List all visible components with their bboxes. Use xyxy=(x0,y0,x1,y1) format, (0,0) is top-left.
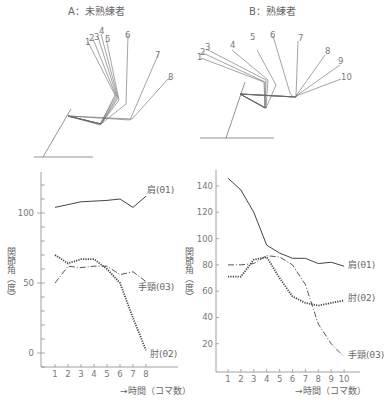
x-axis-label-a: →時間（コマ数） xyxy=(120,385,191,396)
series-line-b xyxy=(228,178,344,266)
figure-canvas: 12345678 A：未熟練者 12345678910 B：熟練者 050100… xyxy=(0,0,392,400)
y-tick-label-b: 80 xyxy=(202,260,213,270)
x-tick-label-a: 4 xyxy=(91,369,96,379)
x-tick-label-a: 5 xyxy=(104,369,109,379)
legend-elbow-a: 肘(θ2) xyxy=(150,349,177,359)
stick-figure-unskilled: 12345678 xyxy=(34,26,173,157)
y-tick-label-a: 50 xyxy=(23,278,34,288)
y-tick-label-b: 120 xyxy=(197,207,213,217)
x-tick-label-b: 3 xyxy=(251,374,256,384)
x-tick-label-b: 10 xyxy=(339,374,350,384)
legend-shoulder-b: 肩(θ1) xyxy=(348,259,375,270)
frame-number-a: 8 xyxy=(168,72,173,82)
legend-elbow-b: 肘(θ2) xyxy=(348,293,375,303)
x-tick-label-a: 7 xyxy=(130,369,135,379)
y-tick-label-b: 140 xyxy=(197,181,213,191)
legend-wrist-a: 手頸(θ3) xyxy=(138,281,174,292)
axes-b: 2040608010012014012345678910関節角（度） xyxy=(184,170,360,384)
legend-shoulder-a: 肩(θ1) xyxy=(147,184,174,195)
frame-number-a: 6 xyxy=(125,30,130,40)
x-tick-label-b: 4 xyxy=(264,374,269,384)
x-tick-label-b: 6 xyxy=(290,374,295,384)
y-tick-label-b: 40 xyxy=(202,312,213,322)
arm-pose xyxy=(240,36,293,97)
x-tick-label-b: 2 xyxy=(238,374,243,384)
trunk-line xyxy=(43,109,71,157)
arm-pose xyxy=(68,34,118,124)
x-tick-label-a: 1 xyxy=(52,369,57,379)
x-tick-label-a: 2 xyxy=(65,369,70,379)
arm-pose xyxy=(68,35,128,124)
arm-pose xyxy=(68,38,119,124)
x-axis-label-b: →時間（コマ数） xyxy=(295,385,366,396)
frame-number-a: 5 xyxy=(105,34,110,44)
stick-figure-skilled: 12345678910 xyxy=(197,30,352,138)
frame-number-b: 5 xyxy=(250,32,255,42)
frame-number-b: 4 xyxy=(230,40,235,50)
arm-pose xyxy=(240,41,298,97)
y-tick-label-b: 100 xyxy=(197,234,213,244)
axes-a: 05010012345678関節角（度） xyxy=(6,172,178,379)
x-tick-label-a: 8 xyxy=(143,369,148,379)
series-b xyxy=(228,178,344,357)
x-tick-label-b: 5 xyxy=(277,374,282,384)
arm-pose xyxy=(68,55,158,120)
panel-title-a: A：未熟練者 xyxy=(68,5,125,17)
chart-skilled: 2040608010012014012345678910関節角（度） 肩(θ1)… xyxy=(184,170,384,396)
legend-wrist-b: 手頸(θ3) xyxy=(348,349,384,360)
series-line-a xyxy=(55,196,146,207)
trunk-line xyxy=(226,82,245,138)
y-tick-label-a: 0 xyxy=(29,348,34,358)
frame-number-b: 10 xyxy=(341,72,352,82)
frame-number-b: 3 xyxy=(205,42,210,52)
panel-title-b: B：熟練者 xyxy=(249,5,296,17)
frame-number-b: 7 xyxy=(298,33,303,43)
x-tick-label-a: 6 xyxy=(117,369,122,379)
series-line-a xyxy=(55,255,146,350)
series-line-a xyxy=(55,266,146,283)
frame-number-a: 4 xyxy=(99,26,104,36)
y-tick-label-b: 20 xyxy=(202,339,213,349)
x-tick-label-b: 1 xyxy=(225,374,230,384)
y-tick-label-a: 100 xyxy=(18,208,34,218)
frame-number-b: 8 xyxy=(325,46,330,56)
arm-pose xyxy=(240,79,341,97)
frame-number-b: 6 xyxy=(270,30,275,40)
series-line-b xyxy=(228,257,344,306)
x-tick-label-a: 3 xyxy=(78,369,83,379)
x-tick-label-b: 7 xyxy=(303,374,308,384)
chart-unskilled: 05010012345678関節角（度） 肩(θ1) 手頸(θ3) 肘(θ2) … xyxy=(6,172,191,396)
x-tick-label-b: 9 xyxy=(328,374,333,384)
y-axis-label-b: 関節角（度） xyxy=(184,247,194,301)
frame-number-a: 7 xyxy=(155,50,160,60)
arm-pose xyxy=(203,53,265,108)
x-tick-label-b: 8 xyxy=(316,374,321,384)
arm-pose xyxy=(201,58,265,108)
frame-number-b: 9 xyxy=(338,56,343,66)
y-axis-label-a: 関節角（度） xyxy=(6,247,16,301)
y-tick-label-b: 60 xyxy=(202,286,213,296)
series-a xyxy=(55,196,146,350)
